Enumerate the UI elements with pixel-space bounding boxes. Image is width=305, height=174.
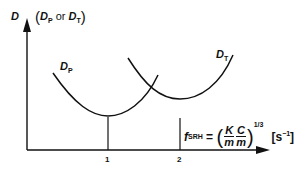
curve-label-dt: DT <box>216 48 228 62</box>
tick-label-1: 1 <box>105 155 109 164</box>
curve-label-dp: DP <box>60 60 73 74</box>
curve-dp <box>53 73 158 116</box>
srh-frequency-formula: fSRH = ( Km Cm ) 1/3 [s−1] <box>184 125 294 148</box>
fraction-m1: m <box>224 137 234 148</box>
formula-unit: [s−1] <box>271 130 294 144</box>
unit-base: [s <box>271 130 282 144</box>
formula-paren-open: ( <box>216 127 223 147</box>
y-axis-arrow-icon <box>23 18 31 32</box>
paren-close: ) <box>81 8 86 25</box>
curve-label-dt-symbol: D <box>216 48 224 60</box>
formula-f-sub: SRH <box>188 133 203 140</box>
tick-label-2: 2 <box>177 155 181 164</box>
qualifier-or: or <box>53 10 69 22</box>
fraction-m2: m <box>236 137 246 148</box>
y-axis-qualifier: (DP or DT) <box>35 8 86 25</box>
fraction-k-over-m: Km <box>224 125 234 148</box>
fraction-c-over-m: Cm <box>236 125 246 148</box>
y-axis-label: D <box>11 10 19 22</box>
curve-label-dp-symbol: D <box>60 60 68 72</box>
formula-paren-close: ) <box>247 127 254 147</box>
formula-exponent: 1/3 <box>254 121 264 128</box>
curve-label-dp-sub: P <box>68 67 73 74</box>
curve-label-dt-sub: T <box>224 55 228 62</box>
unit-close: ] <box>290 130 294 144</box>
unit-exponent: −1 <box>282 130 290 137</box>
formula-equals: = <box>203 130 217 144</box>
qualifier-d1: D <box>40 10 48 22</box>
